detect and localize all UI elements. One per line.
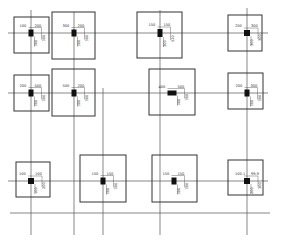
column-section xyxy=(72,90,77,97)
dimension-label: 300 xyxy=(114,182,118,190)
dimension-label: 99.9 xyxy=(251,172,260,176)
footing-A1: 100200300300 xyxy=(14,17,49,53)
dimension-label: 200 xyxy=(35,24,43,28)
column-section xyxy=(245,90,250,97)
footing-B4: 200300300300 xyxy=(228,73,263,109)
dimension-label: 150 xyxy=(164,23,172,27)
dimension-label: 300 xyxy=(185,93,189,101)
footings: 1002003003003002003003001501503005202003… xyxy=(14,12,263,202)
dimension-label: 100 xyxy=(35,172,43,176)
dimension-label: 300 xyxy=(77,99,81,107)
dimension-label: 300 xyxy=(258,94,262,102)
dimension-label: 200 xyxy=(250,186,254,194)
footing-C4: 100.199.9200300 xyxy=(228,160,263,195)
dimension-label: 150 xyxy=(149,23,157,27)
dimension-label: 200 xyxy=(20,84,28,88)
dimension-label: 200 xyxy=(235,24,243,28)
dimension-label: 200 xyxy=(78,24,86,28)
dimension-label: 300 xyxy=(250,99,254,107)
dimension-label: 300 xyxy=(258,181,262,189)
dimension-label: 300 xyxy=(250,38,254,46)
footing-C3: 150150300300 xyxy=(152,155,197,202)
dimension-label: 300 xyxy=(251,24,259,28)
dimension-label: 500 xyxy=(178,85,186,89)
column-section xyxy=(29,90,34,97)
dimension-label: 300 xyxy=(63,24,71,28)
column-section xyxy=(101,178,106,185)
dimension-label: 150 xyxy=(107,172,115,176)
dimension-label: 200 xyxy=(236,84,244,88)
dimension-label: 200 xyxy=(78,84,86,88)
dimension-label: 100 xyxy=(19,172,27,176)
dimension-label: 300 xyxy=(42,34,46,42)
dimension-label: 300 xyxy=(42,94,46,102)
dimension-label: 300 xyxy=(177,98,181,106)
dimension-label: 300 xyxy=(106,187,110,195)
footing-B2: 500200300300 xyxy=(52,69,95,116)
dimension-label: 300 xyxy=(251,84,259,88)
dimension-label: 500 xyxy=(35,84,43,88)
column-section xyxy=(28,178,34,184)
dimension-label: 300 xyxy=(177,187,181,195)
dimension-label: 300 xyxy=(34,39,38,47)
column-section xyxy=(72,30,77,37)
footing-B3: 400500300300 xyxy=(149,69,195,115)
dimension-label: 400 xyxy=(159,85,167,89)
dimension-label: 100.1 xyxy=(235,172,245,176)
dimension-label: 300 xyxy=(85,34,89,42)
dimension-label: 500 xyxy=(63,84,71,88)
dimension-label: 150 xyxy=(178,172,186,176)
dimension-label: 300 xyxy=(163,39,167,47)
dimension-label: 150 xyxy=(92,172,100,176)
grid-axes xyxy=(8,8,270,235)
footing-A3: 150150300520 xyxy=(137,12,182,58)
column-section xyxy=(172,178,177,185)
dimension-label: 100 xyxy=(34,186,38,194)
dimension-label: 300 xyxy=(77,39,81,47)
column-section xyxy=(158,29,163,37)
dimension-label: 300 xyxy=(85,94,89,102)
footing-C1: 100100100200 xyxy=(16,162,50,197)
dimension-label: 200 xyxy=(42,181,46,189)
dimension-label: 100 xyxy=(20,24,28,28)
column-section xyxy=(244,30,250,36)
footing-A2: 300200300300 xyxy=(52,12,95,59)
column-section xyxy=(29,30,34,37)
column-section xyxy=(244,178,250,184)
dimension-label: 300 xyxy=(185,182,189,190)
dimension-label: 520 xyxy=(171,34,175,42)
dimension-label: 300 xyxy=(34,99,38,107)
column-section xyxy=(168,91,177,96)
dimension-label: 300 xyxy=(258,33,262,41)
dimension-label: 150 xyxy=(163,172,171,176)
foundation-plan-drawing: 1002003003003002003003001501503005202003… xyxy=(0,0,281,243)
